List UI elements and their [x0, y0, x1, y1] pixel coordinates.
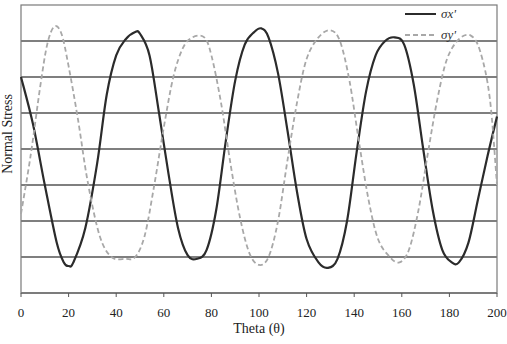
x-tick-label: 140 — [344, 305, 364, 320]
x-axis-title: Theta (θ) — [233, 321, 285, 337]
x-tick-label: 80 — [205, 305, 218, 320]
x-tick-label: 100 — [249, 305, 269, 320]
x-tick-label: 160 — [392, 305, 412, 320]
normal-stress-chart: 020406080100120140160180200 σx' σy' Thet… — [0, 0, 507, 344]
series-sigma-y-line — [21, 26, 497, 265]
x-tick-label: 40 — [110, 305, 123, 320]
x-tick-label: 200 — [487, 305, 507, 320]
x-tick-label: 60 — [157, 305, 170, 320]
x-tick-label: 180 — [440, 305, 460, 320]
legend: σx' σy' — [405, 6, 456, 42]
series-sigma-x-line — [21, 28, 497, 268]
x-tick-label: 120 — [297, 305, 317, 320]
legend-label-sigma-x: σx' — [441, 6, 456, 21]
legend-label-sigma-y: σy' — [441, 27, 456, 42]
x-tick-label: 20 — [62, 305, 75, 320]
x-axis-ticks: 020406080100120140160180200 — [18, 293, 507, 320]
data-series — [21, 26, 497, 268]
x-tick-label: 0 — [18, 305, 25, 320]
y-axis-title: Normal Stress — [0, 94, 15, 174]
